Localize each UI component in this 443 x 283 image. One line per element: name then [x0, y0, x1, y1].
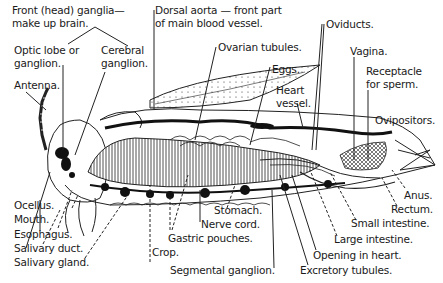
label-cerebral-ganglion: Cerebral ganglion. [101, 44, 148, 69]
insect-anatomy-diagram: Front (head) ganglia— make up brain. Opt… [0, 0, 443, 283]
label-text: Dorsal aorta — front part [155, 4, 282, 17]
label-small-intestine: Small intestine. [351, 217, 429, 230]
label-esophagus: Esophagus. [14, 228, 72, 241]
antenna [40, 88, 48, 150]
label-anus: Anus. [404, 189, 432, 202]
label-ocellus: Ocellus. [14, 199, 54, 212]
label-vagina: Vagina. [350, 45, 387, 58]
label-text: Receptacle [366, 65, 422, 78]
label-eggs: Eggs. [272, 63, 300, 76]
label-text: Front (head) ganglia— [12, 4, 125, 17]
label-ovipositors: Ovipositors. [375, 114, 435, 127]
label-text: vessel. [276, 97, 311, 110]
label-rectum: Rectum. [391, 203, 433, 216]
receptacle-hatched [340, 142, 386, 170]
label-text: Optic lobe or [14, 44, 79, 57]
label-heart-vessel: Heart vessel. [276, 84, 311, 109]
label-oviducts: Oviducts. [326, 18, 374, 31]
label-text: for sperm. [366, 78, 422, 91]
label-text: ganglion. [14, 57, 79, 70]
brain-ganglia [55, 147, 75, 178]
label-large-intestine: Large intestine. [334, 233, 413, 246]
label-receptacle-for-sperm: Receptacle for sperm. [366, 65, 422, 90]
label-ovarian-tubules: Ovarian tubules. [218, 41, 302, 54]
label-nerve-cord: Nerve cord. [201, 218, 260, 231]
label-excretory-tubules: Excretory tubules. [300, 264, 392, 277]
label-text: of main blood vessel. [155, 17, 282, 30]
label-mouth: Mouth. [14, 213, 49, 226]
label-crop: Crop. [152, 246, 179, 259]
label-segmental-ganglion: Segmental ganglion. [170, 264, 275, 277]
heart-vessel [105, 121, 392, 134]
label-text: make up brain. [12, 17, 125, 30]
label-salivary-gland: Salivary gland. [14, 256, 89, 269]
label-text: Cerebral [101, 44, 148, 57]
crop-stomach [88, 138, 320, 187]
label-dorsal-aorta: Dorsal aorta — front part of main blood … [155, 4, 282, 29]
label-stomach: Stomach. [214, 204, 262, 217]
label-gastric-pouches: Gastric pouches. [168, 232, 253, 245]
label-text: Heart [276, 84, 311, 97]
label-salivary-duct: Salivary duct. [14, 242, 83, 255]
label-antenna: Antenna. [14, 79, 60, 92]
label-text: ganglion. [101, 57, 148, 70]
label-front-ganglia: Front (head) ganglia— make up brain. [12, 4, 125, 29]
label-opening-in-heart: Opening in heart. [313, 249, 401, 262]
label-optic-lobe: Optic lobe or ganglion. [14, 44, 79, 69]
